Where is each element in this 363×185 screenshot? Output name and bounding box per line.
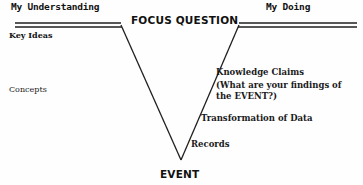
left-item-concepts: Concepts bbox=[9, 85, 47, 94]
left-heading: My Understanding bbox=[11, 2, 99, 13]
vee-left-arm bbox=[121, 25, 181, 160]
bottom-label-event: EVENT bbox=[160, 168, 199, 180]
right-item-transformation-of-data: Transformation of Data bbox=[201, 113, 313, 124]
vee-diagram-canvas: My Understanding My Doing FOCUS QUESTION… bbox=[0, 0, 363, 185]
right-item-knowledge-claims: Knowledge Claims bbox=[216, 67, 304, 78]
right-item-records: Records bbox=[191, 139, 230, 150]
right-item-findings-question: (What are your findings of the EVENT?) bbox=[216, 80, 356, 101]
focus-question-title: FOCUS QUESTION bbox=[131, 14, 238, 26]
left-item-key-ideas: Key Ideas bbox=[9, 31, 52, 40]
left-double-rule bbox=[15, 23, 122, 27]
right-heading: My Doing bbox=[266, 2, 310, 13]
right-double-rule bbox=[238, 23, 357, 27]
